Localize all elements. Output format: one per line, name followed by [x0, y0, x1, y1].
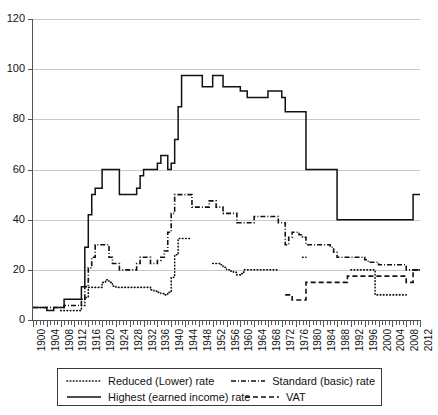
legend-swatch-dash-dot [230, 376, 266, 386]
x-tick-1973 [285, 321, 286, 325]
x-tick-1901 [36, 321, 37, 325]
y-tick-label-0: 0 [0, 314, 25, 325]
legend-label-highest-rate: Highest (earned income) rate [108, 391, 250, 403]
x-tick-1912 [74, 321, 75, 327]
x-tick-1911 [71, 321, 72, 325]
legend-swatch-solid [66, 392, 102, 402]
x-tick-1935 [154, 321, 155, 325]
x-tick-label-1932: 1932 [148, 329, 158, 351]
x-tick-2000 [379, 321, 380, 327]
x-tick-label-1956: 1956 [231, 329, 241, 351]
y-tick-label-100: 100 [0, 63, 25, 74]
x-tick-1948 [199, 321, 200, 327]
legend-swatch-dashed [244, 392, 280, 402]
x-tick-label-1976: 1976 [300, 329, 310, 351]
x-tick-2008 [406, 321, 407, 327]
legend-entry-highest-rate: Highest (earned income) rate [66, 391, 244, 403]
x-tick-1908 [61, 321, 62, 327]
x-tick-1950 [206, 321, 207, 325]
x-tick-1960 [240, 321, 241, 327]
x-tick-1986 [330, 321, 331, 325]
x-tick-label-1936: 1936 [161, 329, 171, 351]
x-tick-1980 [309, 321, 310, 327]
x-tick-1941 [175, 321, 176, 325]
x-tick-1997 [368, 321, 369, 325]
x-tick-1919 [99, 321, 100, 325]
x-tick-1951 [209, 321, 210, 325]
x-tick-label-1964: 1964 [258, 329, 268, 351]
x-tick-2005 [396, 321, 397, 325]
x-tick-1955 [223, 321, 224, 325]
legend-label-reduced-rate: Reduced (Lower) rate [108, 375, 214, 387]
x-tick-1918 [95, 321, 96, 325]
x-tick-label-1984: 1984 [327, 329, 337, 351]
x-tick-2009 [410, 321, 411, 325]
x-tick-1988 [337, 321, 338, 327]
x-tick-2012 [420, 321, 421, 327]
x-tick-1916 [88, 321, 89, 327]
x-tick-1974 [289, 321, 290, 325]
x-tick-1928 [130, 321, 131, 327]
x-tick-1957 [230, 321, 231, 325]
legend-entry-vat: VAT [244, 391, 306, 403]
x-tick-label-1900: 1900 [37, 329, 47, 351]
x-tick-1903 [43, 321, 44, 325]
x-tick-1966 [261, 321, 262, 325]
x-tick-2010 [413, 321, 414, 325]
x-tick-1981 [313, 321, 314, 325]
x-tick-label-1928: 1928 [134, 329, 144, 351]
x-tick-label-1940: 1940 [175, 329, 185, 351]
x-axis-line [32, 320, 421, 321]
x-tick-1905 [50, 321, 51, 325]
x-tick-1902 [40, 321, 41, 325]
x-tick-1978 [303, 321, 304, 325]
x-tick-1990 [344, 321, 345, 325]
x-tick-1924 [116, 321, 117, 327]
x-tick-1922 [109, 321, 110, 325]
x-tick-label-1972: 1972 [286, 329, 296, 351]
legend-swatch-dotted [66, 376, 102, 386]
x-tick-1940 [171, 321, 172, 327]
x-tick-2002 [385, 321, 386, 325]
x-tick-1964 [254, 321, 255, 327]
x-tick-label-2000: 2000 [383, 329, 393, 351]
y-tick-label-80: 80 [0, 113, 25, 124]
x-tick-label-2004: 2004 [396, 329, 406, 351]
x-tick-1906 [54, 321, 55, 325]
x-tick-1904 [47, 321, 48, 327]
x-tick-1993 [354, 321, 355, 325]
x-tick-1987 [334, 321, 335, 325]
x-tick-1970 [275, 321, 276, 325]
x-tick-1931 [140, 321, 141, 325]
x-tick-1995 [361, 321, 362, 325]
x-tick-label-1968: 1968 [272, 329, 282, 351]
x-tick-label-2008: 2008 [410, 329, 420, 351]
x-tick-1946 [192, 321, 193, 325]
x-tick-2007 [403, 321, 404, 325]
x-tick-label-1960: 1960 [244, 329, 254, 351]
x-tick-label-1924: 1924 [120, 329, 130, 351]
x-tick-1972 [282, 321, 283, 327]
x-tick-label-1992: 1992 [355, 329, 365, 351]
x-tick-label-1988: 1988 [341, 329, 351, 351]
x-tick-1959 [237, 321, 238, 325]
legend-label-standard-rate: Standard (basic) rate [272, 375, 375, 387]
x-tick-1929 [133, 321, 134, 325]
x-tick-1969 [271, 321, 272, 325]
x-tick-1982 [316, 321, 317, 325]
x-tick-1934 [150, 321, 151, 325]
x-tick-1921 [106, 321, 107, 325]
tax-rates-line-chart: 020406080100120 190019041908191219161920… [0, 0, 438, 415]
x-tick-label-1952: 1952 [217, 329, 227, 351]
series-layer [33, 19, 420, 320]
x-tick-1917 [92, 321, 93, 325]
x-tick-label-1948: 1948 [203, 329, 213, 351]
x-tick-2006 [399, 321, 400, 325]
x-tick-1994 [358, 321, 359, 325]
x-tick-1996 [365, 321, 366, 327]
y-tick-label-20: 20 [0, 264, 25, 275]
x-tick-1927 [126, 321, 127, 325]
x-tick-2001 [382, 321, 383, 325]
x-tick-1956 [227, 321, 228, 327]
x-tick-1975 [292, 321, 293, 325]
